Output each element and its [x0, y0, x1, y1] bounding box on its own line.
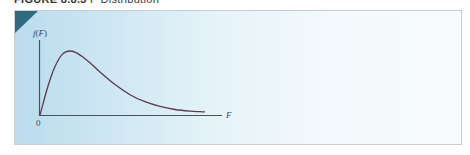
x-axis-label: F — [225, 110, 232, 120]
y-axis-label: f(F) — [33, 28, 47, 38]
origin-label: 0 — [36, 118, 41, 128]
f-distribution-chart: f(F) F 0 — [0, 0, 470, 155]
density-curve — [40, 51, 205, 115]
